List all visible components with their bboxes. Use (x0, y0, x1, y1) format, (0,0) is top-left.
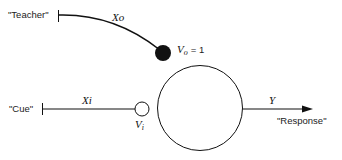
teacher-synapse-dot (155, 45, 171, 61)
output-signal-label: Y (269, 94, 277, 106)
neuron-body-circle (158, 66, 243, 151)
teacher-signal-label: Xo (111, 11, 125, 23)
output-arrowhead-icon (302, 106, 313, 113)
teacher-weight-label: Vo= 1 (177, 43, 204, 57)
teacher-input-line (59, 15, 161, 50)
cue-label: "Cue" (9, 103, 33, 114)
cue-signal-label: Xi (81, 94, 92, 106)
response-label: "Response" (277, 115, 327, 126)
teacher-label: "Teacher" (8, 9, 49, 20)
neuron-learning-diagram: "Teacher" Xo Vo= 1 "Cue" Xi Vi Y "Respon… (0, 0, 342, 160)
cue-synapse-circle (135, 102, 149, 116)
cue-weight-label: Vi (135, 118, 144, 132)
